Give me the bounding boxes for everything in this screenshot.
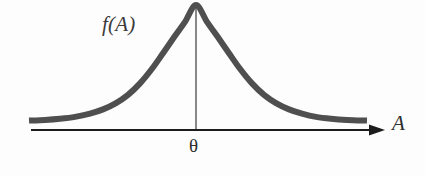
density-function-label: f(A) [102,14,135,35]
theta-center-label: θ [189,136,198,155]
density-curve [29,5,367,121]
figure-canvas [0,0,425,176]
x-axis-arrowhead-icon [369,124,385,135]
density-figure: f(A) A θ [0,0,425,176]
x-axis-label: A [392,113,405,134]
